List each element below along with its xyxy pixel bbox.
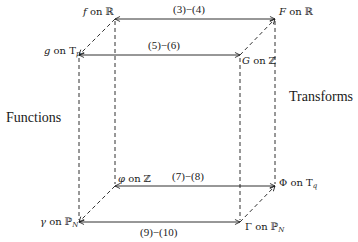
node-Phi-symbol: Φ <box>279 177 287 188</box>
node-F-domain: ℝ <box>305 6 313 17</box>
node-Gamma-on: on <box>255 221 267 232</box>
node-Phi: Φ on Tq <box>279 178 317 190</box>
node-Phi-domain: T <box>306 177 313 188</box>
fourier-cube-diagram: f on ℝ F on ℝ g on Tp G on ℤ φ on ℤ Φ on… <box>0 0 358 242</box>
node-F-symbol: F <box>279 6 286 17</box>
node-phi-on: on <box>128 173 140 184</box>
node-f-domain: ℝ <box>106 6 114 17</box>
node-phi-domain: ℤ <box>144 173 151 184</box>
transforms-title: Transforms <box>289 89 353 105</box>
node-G-domain: ℤ <box>269 55 276 66</box>
node-Gamma: Γ on ℙN <box>245 222 284 234</box>
node-f-on: on <box>90 6 102 17</box>
node-g-subscript: p <box>76 50 80 58</box>
node-g: g on Tp <box>44 46 80 58</box>
node-f-symbol: f <box>83 6 87 17</box>
node-F-on: on <box>289 6 301 17</box>
node-phi-symbol: φ <box>118 173 125 184</box>
arrow-G-F <box>240 19 275 55</box>
edge-label-g-G: (5)−(6) <box>148 39 180 51</box>
node-phi: φ on ℤ <box>118 174 151 184</box>
node-G-symbol: G <box>242 55 250 66</box>
node-G-on: on <box>253 55 265 66</box>
node-gamma-subscript: N <box>72 221 78 229</box>
node-gamma-symbol: γ <box>40 216 46 227</box>
arrow-Gamma-Phi <box>240 186 275 222</box>
node-Phi-subscript: q <box>313 182 317 190</box>
node-gamma-on: on <box>49 216 61 227</box>
node-g-symbol: g <box>44 45 50 56</box>
node-gamma: γ on ℙN <box>40 217 78 229</box>
node-Gamma-subscript: N <box>278 226 284 234</box>
arrow-phi-gamma <box>79 186 115 222</box>
node-G: G on ℤ <box>242 56 276 66</box>
node-f: f on ℝ <box>83 7 114 17</box>
arrow-f-g <box>79 19 115 55</box>
node-Gamma-symbol: Γ <box>245 221 252 232</box>
functions-title: Functions <box>6 110 61 126</box>
node-Phi-on: on <box>290 177 302 188</box>
node-F: F on ℝ <box>279 7 313 17</box>
node-g-on: on <box>54 45 66 56</box>
edge-label-f-F: (3)−(4) <box>173 3 205 15</box>
node-g-domain: T <box>69 45 76 56</box>
edge-label-gamma-Gamma: (9)−(10) <box>140 226 177 238</box>
edge-label-phi-Phi: (7)−(8) <box>172 170 204 182</box>
